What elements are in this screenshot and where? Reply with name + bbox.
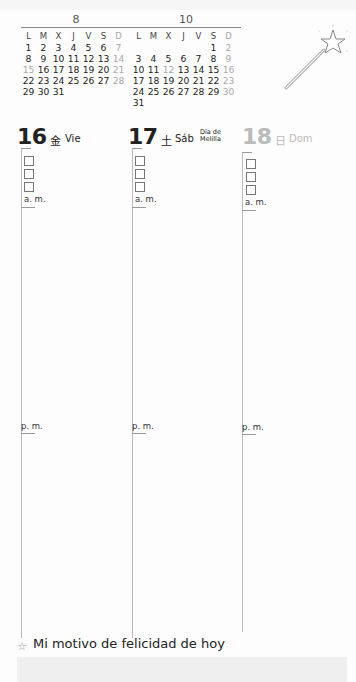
date: 28: [191, 86, 206, 97]
weekday: S: [96, 31, 111, 42]
day-kanji: 金: [50, 132, 61, 148]
day-header: 17 土 Sáb Día de Melilla: [128, 124, 238, 150]
column-tick: [242, 152, 252, 153]
date: 7: [191, 53, 206, 64]
date: 18: [146, 75, 161, 86]
date: 29: [206, 86, 221, 97]
date: 9: [36, 53, 51, 64]
date: 25: [66, 75, 81, 86]
date: 11: [66, 53, 81, 64]
date: 1: [21, 42, 36, 53]
star-icon: ☆: [17, 640, 27, 653]
date: 16: [36, 64, 51, 75]
date: 14: [111, 53, 126, 64]
date: 5: [81, 42, 96, 53]
date: 24: [131, 86, 146, 97]
date: 10: [51, 53, 66, 64]
date: 20: [96, 64, 111, 75]
date: 17: [131, 75, 146, 86]
day-name: Vie: [65, 133, 81, 144]
am-underline: [21, 207, 35, 208]
am-underline: [132, 207, 146, 208]
am-label: a. m.: [245, 197, 267, 207]
happiness-writing-area[interactable]: [17, 657, 347, 682]
date: 23: [36, 75, 51, 86]
date: 10: [131, 64, 146, 75]
weekday: L: [21, 31, 36, 42]
top-band: [0, 0, 356, 10]
checkbox[interactable]: [24, 156, 34, 166]
date: 15: [21, 64, 36, 75]
date: 7: [111, 42, 126, 53]
pm-underline: [242, 434, 256, 435]
column-tick: [132, 148, 142, 149]
date: 15: [206, 64, 221, 75]
pm-underline: [21, 433, 35, 434]
date: 22: [21, 75, 36, 86]
date: 19: [161, 75, 176, 86]
checkbox[interactable]: [135, 169, 145, 179]
weekday: J: [176, 31, 191, 42]
date: 6: [176, 53, 191, 64]
date: 31: [51, 86, 66, 97]
date: 11: [146, 64, 161, 75]
calendar-grid: L M X J V S D 1 2 3 4 5 6 7 8 9 10 11 12…: [21, 31, 131, 97]
weekday: V: [81, 31, 96, 42]
checkbox[interactable]: [246, 159, 256, 169]
checkbox[interactable]: [135, 156, 145, 166]
weekday: D: [111, 31, 126, 42]
weekday: X: [161, 31, 176, 42]
checkbox[interactable]: [24, 182, 34, 192]
calendar-grid: L M X J V S D 1 2 3 4 5 6 7 8 9 10 11 12…: [131, 31, 241, 108]
am-underline: [242, 210, 256, 211]
date: 25: [146, 86, 161, 97]
date: 4: [66, 42, 81, 53]
day-number: 17: [128, 124, 158, 149]
weekday: L: [131, 31, 146, 42]
column-line: [132, 148, 133, 638]
date: 29: [21, 86, 36, 97]
date: 28: [111, 75, 126, 86]
date: 26: [81, 75, 96, 86]
day-column-16: 16 金 Vie: [17, 124, 127, 150]
date: 13: [96, 53, 111, 64]
date: 2: [36, 42, 51, 53]
pm-underline: [132, 433, 146, 434]
date: 8: [21, 53, 36, 64]
day-name: Sáb: [175, 133, 194, 144]
date: 5: [161, 53, 176, 64]
weekday: V: [191, 31, 206, 42]
weekday: X: [51, 31, 66, 42]
date: 1: [206, 42, 221, 53]
date: 19: [81, 64, 96, 75]
date: 18: [66, 64, 81, 75]
pm-label: p. m.: [242, 422, 264, 432]
weekday: S: [206, 31, 221, 42]
column-line: [21, 148, 22, 638]
weekday: M: [36, 31, 51, 42]
date: 23: [221, 75, 236, 86]
checkbox[interactable]: [24, 169, 34, 179]
day-column-18: 18 日 Dom: [242, 124, 352, 150]
checkbox[interactable]: [135, 182, 145, 192]
date: 27: [96, 75, 111, 86]
date: 21: [191, 75, 206, 86]
date: 22: [206, 75, 221, 86]
date: 12: [81, 53, 96, 64]
checkbox[interactable]: [246, 185, 256, 195]
date: 20: [176, 75, 191, 86]
am-label: a. m.: [24, 194, 46, 204]
column-tick: [21, 148, 31, 149]
date: 26: [161, 86, 176, 97]
day-column-17: 17 土 Sáb Día de Melilla: [128, 124, 238, 150]
mini-calendar-august: 8 L M X J V S D 1 2 3 4 5 6 7 8 9 10 11 …: [21, 14, 131, 97]
checkbox[interactable]: [246, 172, 256, 182]
date: 30: [221, 86, 236, 97]
date: 9: [221, 53, 236, 64]
date: 21: [111, 64, 126, 75]
month-label: 10: [131, 14, 241, 28]
am-label: a. m.: [135, 194, 157, 204]
date: 6: [96, 42, 111, 53]
date: 17: [51, 64, 66, 75]
date: 24: [51, 75, 66, 86]
